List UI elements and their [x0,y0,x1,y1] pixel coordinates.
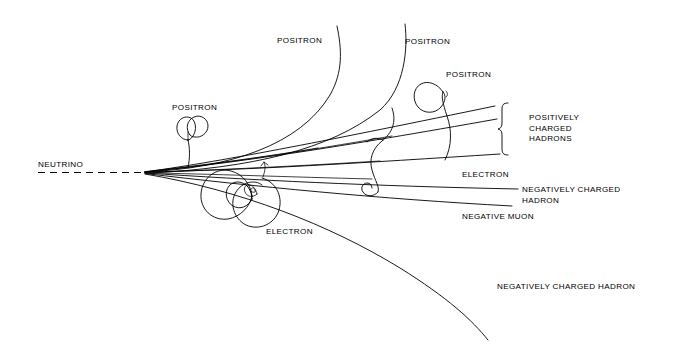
particle-tracks-canvas [0,0,680,353]
electron-spiral-stem [263,162,265,177]
electron-spiral-mid-loop [226,182,252,208]
electron-spiral-track [233,178,280,227]
core-track-c [145,173,372,179]
label-negatively-charged-hadron-bottom: NEGATIVELY CHARGED HADRON [497,282,635,293]
positron-loop-left [177,116,208,168]
negative-hadron-bottom-track [145,174,488,340]
positron-loop-right-track [442,92,450,160]
bubble-chamber-diagram: NEUTRINO POSITRON POSITRON POSITRON POSI… [0,0,680,353]
electron-right-group [362,108,394,196]
positron-loop-right-tick [446,91,448,97]
label-positron-2: POSITRON [405,37,450,48]
hadron-group-brace [498,103,508,155]
negative-muon-track [145,174,512,207]
label-electron-right: ELECTRON [462,170,509,181]
label-positron-3: POSITRON [446,70,491,81]
electron-right-track [371,108,394,192]
electron-spiral-core [251,188,255,192]
positron-loop-left-track [188,140,190,168]
label-negative-muon: NEGATIVE MUON [462,212,534,223]
label-positron-1: POSITRON [277,36,322,47]
electron-spiral-group [201,162,280,227]
label-positively-charged-hadrons: POSITIVELY CHARGED HADRONS [529,113,579,145]
label-positron-4: POSITRON [172,103,217,114]
label-negatively-charged-hadron-right: NEGATIVELY CHARGED HADRON [522,185,621,206]
positron-loop-right-spiral [414,82,445,112]
positron-loop-left-circle-b [187,116,208,137]
label-electron-lower: ELECTRON [266,227,313,238]
label-neutrino: NEUTRINO [38,160,83,171]
